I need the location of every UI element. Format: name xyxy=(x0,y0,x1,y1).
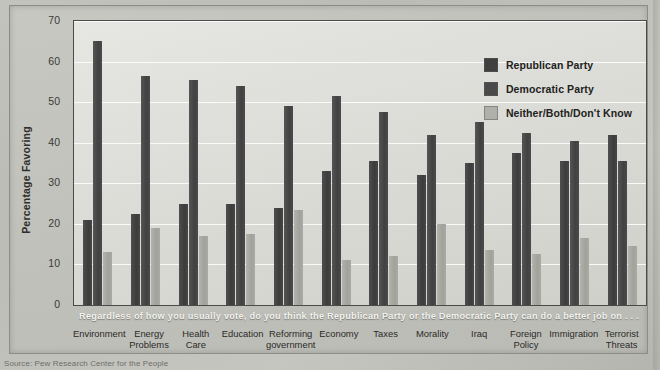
chart-frame: Percentage Favoring 010203040506070 Repu… xyxy=(9,5,648,354)
y-axis-tick-60: 60 xyxy=(48,55,60,67)
y-axis-tick-70: 70 xyxy=(48,14,60,26)
bar xyxy=(236,86,245,305)
question-banner: Regardless of how you usually vote, do y… xyxy=(73,308,645,324)
legend-label-democratic: Democratic Party xyxy=(506,83,594,95)
bar xyxy=(628,246,637,305)
y-axis-tick-30: 30 xyxy=(48,176,60,188)
legend-label-neither: Neither/Both/Don't Know xyxy=(506,107,632,119)
x-axis-label: Economy xyxy=(315,328,362,358)
question-banner-text: Regardless of how you usually vote, do y… xyxy=(79,311,639,321)
x-axis-label: Reforming government xyxy=(266,328,316,358)
y-axis-tick-20: 20 xyxy=(48,217,60,229)
x-axis-label: Immigration xyxy=(549,328,598,358)
bar xyxy=(608,135,617,305)
bar xyxy=(618,161,627,305)
bar-group xyxy=(169,21,217,305)
bar-group xyxy=(265,21,313,305)
x-axis-category-labels: EnvironmentEnergy ProblemsHealth CareEdu… xyxy=(73,328,645,358)
bar xyxy=(131,214,140,305)
y-axis-tick-10: 10 xyxy=(48,257,60,269)
bar xyxy=(580,238,589,305)
bar xyxy=(93,41,102,305)
bar xyxy=(294,210,303,305)
bar xyxy=(179,204,188,305)
bar-group xyxy=(217,21,265,305)
x-axis-label: Taxes xyxy=(362,328,409,358)
bar xyxy=(532,254,541,305)
y-axis-title: Percentage Favoring xyxy=(20,126,32,234)
bar xyxy=(274,208,283,305)
bar xyxy=(83,220,92,305)
legend-item-democratic: Democratic Party xyxy=(484,82,632,96)
bar xyxy=(417,175,426,305)
y-axis-tick-40: 40 xyxy=(48,136,60,148)
bar xyxy=(141,76,150,305)
bar xyxy=(427,135,436,305)
bar xyxy=(560,161,569,305)
bar xyxy=(570,141,579,305)
bar xyxy=(485,250,494,305)
bar xyxy=(151,228,160,305)
source-note: Source: Pew Research Center for the Peop… xyxy=(4,359,168,368)
bar xyxy=(522,133,531,305)
bar xyxy=(226,204,235,305)
bar xyxy=(475,122,484,305)
bar-group xyxy=(312,21,360,305)
legend-swatch-democratic-icon xyxy=(484,82,498,96)
legend-swatch-neither-icon xyxy=(484,106,498,120)
bar xyxy=(512,153,521,305)
legend: Republican Party Democratic Party Neithe… xyxy=(484,58,632,130)
bar-group xyxy=(74,21,122,305)
chart-page: Percentage Favoring 010203040506070 Repu… xyxy=(0,0,660,370)
legend-item-republican: Republican Party xyxy=(484,58,632,72)
y-axis-tick-0: 0 xyxy=(54,298,60,310)
bar xyxy=(332,96,341,305)
bar xyxy=(465,163,474,305)
x-axis-label: Foreign Policy xyxy=(503,328,550,358)
page-edge-shadow xyxy=(653,0,660,370)
bar-group xyxy=(408,21,456,305)
x-axis-label: Terrorist Threats xyxy=(598,328,645,358)
bar xyxy=(199,236,208,305)
x-axis-label: Energy Problems xyxy=(126,328,173,358)
legend-item-neither: Neither/Both/Don't Know xyxy=(484,106,632,120)
bar xyxy=(103,252,112,305)
bar xyxy=(189,80,198,305)
bar xyxy=(437,224,446,305)
bar xyxy=(342,260,351,305)
y-axis: Percentage Favoring 010203040506070 xyxy=(10,20,68,304)
x-axis-label: Environment xyxy=(73,328,126,358)
x-axis-label: Health Care xyxy=(172,328,219,358)
bar xyxy=(369,161,378,305)
bar xyxy=(389,256,398,305)
bar xyxy=(284,106,293,305)
y-axis-tick-50: 50 xyxy=(48,95,60,107)
bar xyxy=(246,234,255,305)
plot-wrapper: Republican Party Democratic Party Neithe… xyxy=(73,20,645,304)
legend-label-republican: Republican Party xyxy=(506,59,593,71)
legend-swatch-republican-icon xyxy=(484,58,498,72)
bar-group xyxy=(360,21,408,305)
x-axis-label: Iraq xyxy=(456,328,503,358)
bar-group xyxy=(122,21,170,305)
bar xyxy=(322,171,331,305)
x-axis-label: Morality xyxy=(409,328,456,358)
bar xyxy=(379,112,388,305)
x-axis-label: Education xyxy=(219,328,266,358)
